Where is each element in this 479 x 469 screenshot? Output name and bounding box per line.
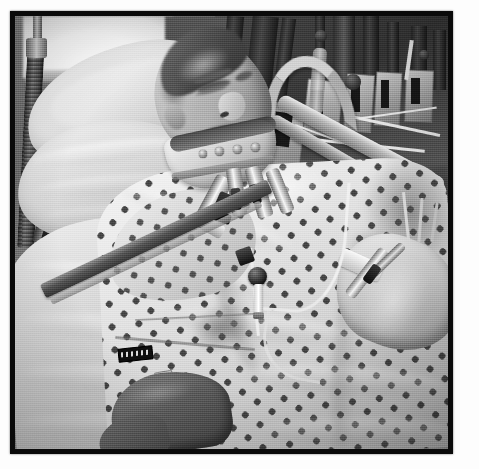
- equipment-knob: [419, 50, 429, 60]
- collar-snap-fastener: [199, 150, 207, 158]
- collar-snap-fastener: [233, 145, 242, 154]
- ventilator-hose-cuff: [26, 38, 47, 58]
- monitor-screen: [411, 78, 420, 104]
- photo-frame: [10, 11, 453, 454]
- collar-snap-fastener: [251, 143, 260, 152]
- monitor-screen: [381, 80, 389, 108]
- photograph: [15, 16, 448, 449]
- equipment-knob: [315, 30, 327, 42]
- equipment-column: [433, 30, 446, 90]
- photo-page: Black and white photograph of a man lyin…: [0, 0, 479, 469]
- equipment-knob: [345, 74, 361, 90]
- collar-snap-fastener: [215, 147, 224, 156]
